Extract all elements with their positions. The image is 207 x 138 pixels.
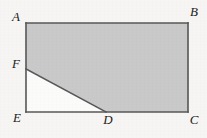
vertex-label-e: E — [12, 110, 21, 125]
figure-canvas: A B F E D C — [0, 0, 207, 138]
vertex-label-c: C — [190, 112, 199, 127]
vertex-label-b: B — [190, 4, 198, 19]
vertex-label-a: A — [11, 9, 20, 24]
vertex-label-f: F — [11, 56, 21, 71]
geometry-figure: A B F E D C — [0, 0, 207, 138]
vertex-label-d: D — [102, 112, 113, 127]
